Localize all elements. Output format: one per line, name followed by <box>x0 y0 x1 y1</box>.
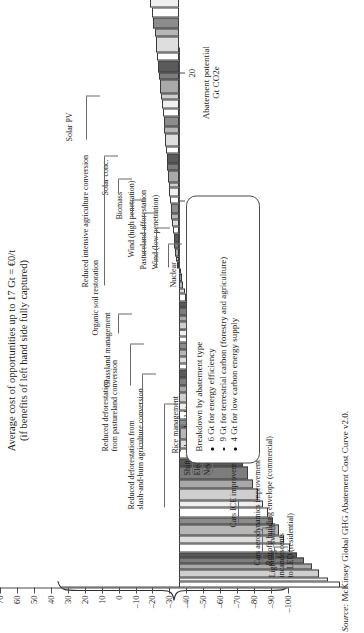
cost-tick <box>17 587 18 593</box>
callout-leader-line <box>238 500 239 525</box>
callout-label-grassland: Grassland management <box>103 312 112 387</box>
callout-leader-line <box>104 156 118 157</box>
potential-tick <box>179 72 185 73</box>
callout-leader-line <box>262 527 276 528</box>
bar <box>164 116 179 126</box>
callout-label-cars-aero: Cars aerodynamics improvement <box>253 459 262 565</box>
callout-leader-line <box>104 156 105 285</box>
abatement-potential-axis-title: Abatement potential Gt CO2e <box>201 7 221 157</box>
cost-tick-label: 60 <box>12 595 22 604</box>
callout-leader-line <box>274 547 275 563</box>
cost-tick-label: –90 <box>266 595 276 608</box>
callout-label-biomass: Biomass <box>115 191 124 219</box>
cost-tick-label: –20 <box>147 595 157 608</box>
callout-leader-line <box>142 373 156 374</box>
cost-tick <box>119 587 120 593</box>
callout-leader-line <box>164 404 178 405</box>
legend-item-low-carbon-supply: 4 Gt for low carbon energy supply <box>229 207 241 451</box>
callout-label-line: to LED (residential) <box>287 513 296 577</box>
cost-tick-label: –40 <box>181 595 191 608</box>
cost-tick-label: –50 <box>198 595 208 608</box>
legend-title: Breakdown by abatement type <box>194 207 204 451</box>
callout-label-line: from pastureland conversion <box>111 359 120 451</box>
callout-leader-line <box>142 374 143 449</box>
callout-label-organic-soil: Organic soil restoration <box>91 260 100 335</box>
bar <box>158 60 179 71</box>
callout-leader-line <box>86 95 100 96</box>
bar <box>166 146 179 154</box>
cost-tick-label: 10 <box>97 595 107 604</box>
callout-leader-line <box>168 243 182 244</box>
callout-label-line: Reduced intensive agriculture conversion <box>81 154 90 287</box>
axis-title-line2: Gt CO2e <box>211 7 221 157</box>
callout-leader-line <box>156 228 170 229</box>
potential-tick <box>179 329 185 330</box>
bar <box>179 581 340 587</box>
cost-tick-label: –80 <box>249 595 259 608</box>
bar <box>163 108 179 116</box>
cost-tick <box>68 587 69 593</box>
callout-leader-line <box>86 96 87 139</box>
cost-tick <box>203 587 204 593</box>
callout-label-line: Wind (high penetration) <box>127 180 136 257</box>
cost-tick <box>288 587 289 593</box>
bar <box>159 72 179 80</box>
callout-label-line: Solar PV <box>65 112 74 141</box>
callout-label-reduced-defor-slash: Reduced deforestation fromslash-and-burn… <box>128 388 146 509</box>
bar <box>169 187 178 196</box>
cost-tick <box>136 587 137 593</box>
chart-title-line2: (if benefits of left hand side fully cap… <box>18 185 30 515</box>
potential-tick <box>179 200 185 201</box>
bar <box>164 126 178 133</box>
bar <box>167 163 178 170</box>
callout-label-line: Cars aerodynamics improvement <box>253 459 262 565</box>
callout-label-reduced-intensive: Reduced intensive agriculture conversion <box>81 154 90 287</box>
callout-leader-line <box>118 314 119 333</box>
bar <box>167 153 179 162</box>
source-note: Source: McKinsey Global GHG Abatement Co… <box>340 411 350 631</box>
axis-title-line1: Abatement potential <box>201 7 211 157</box>
bar <box>168 170 179 182</box>
bar <box>162 99 179 108</box>
callout-label-line: Organic soil restoration <box>91 260 100 335</box>
bar <box>161 93 179 100</box>
bar <box>157 52 179 61</box>
cost-tick-label: –100 <box>283 595 293 612</box>
cost-tick-label: 50 <box>29 595 39 604</box>
cost-tick <box>152 587 153 593</box>
cost-tick <box>237 587 238 593</box>
chart-title-line1: Average cost of opportunities up to 17 G… <box>6 185 18 515</box>
callout-leader-line <box>118 179 119 193</box>
callout-label-nuclear: Nuclear <box>169 262 178 287</box>
cost-tick <box>169 587 170 593</box>
bar <box>171 203 179 213</box>
legend-item-label: 4 Gt for low carbon energy supply <box>229 317 239 441</box>
bar <box>152 7 179 16</box>
callout-leader-line <box>156 228 157 267</box>
callout-leader-line <box>164 404 165 507</box>
callout-leader-line <box>238 499 252 500</box>
cost-tick-label: –70 <box>232 595 242 608</box>
bar <box>150 0 178 7</box>
callout-label-solar-pv: Solar PV <box>65 112 74 141</box>
bar <box>155 29 179 37</box>
cost-tick-label: –10 <box>131 595 141 608</box>
rotated-figure-container: Average cost of opportunities up to 17 G… <box>0 0 364 633</box>
cost-axis: 706050403020100–10–20–30–40–50–60–70–80–… <box>0 587 288 633</box>
cost-tick-label: –60 <box>215 595 225 608</box>
callout-label-line: Retrofit building envelope (commercial) <box>265 435 274 565</box>
bar <box>160 79 179 92</box>
callout-leader-line <box>144 212 158 213</box>
cost-tick <box>271 587 272 593</box>
callout-label-line: Grassland management <box>103 312 112 387</box>
callout-leader-line <box>274 546 288 547</box>
callout-leader-line <box>180 425 181 451</box>
callout-leader-line <box>130 344 131 385</box>
callout-label-wind-high: Wind (high penetration) <box>127 180 136 257</box>
legend-item-terrestrial-carbon: 9 Gt for terrestrial carbon (forestry an… <box>218 207 230 451</box>
bar <box>170 196 178 203</box>
callout-label-line: Biomass <box>115 191 124 219</box>
callout-leader-line <box>118 314 132 315</box>
callout-leader-line <box>168 244 169 267</box>
chart-title: Average cost of opportunities up to 17 G… <box>6 185 30 515</box>
